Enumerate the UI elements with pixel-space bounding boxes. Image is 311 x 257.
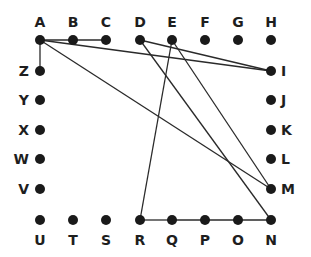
node-l-label: L [281,151,290,167]
node-d-dot [135,35,145,45]
node-z-dot [35,66,45,76]
node-v-label: V [18,181,29,197]
node-x-dot [35,125,45,135]
node-p-label: P [200,232,210,248]
node-s-dot [101,215,111,225]
node-o-dot [233,215,243,225]
node-g-label: G [232,14,244,30]
node-c-label: C [101,14,111,30]
node-b-dot [68,35,78,45]
node-c-dot [101,35,111,45]
node-w-dot [35,154,45,164]
node-j-label: J [280,92,286,108]
node-f-dot [200,35,210,45]
node-i-label: I [281,63,286,79]
node-r-dot [135,215,145,225]
node-f-label: F [200,14,210,30]
node-l-dot [266,154,276,164]
node-s-label: S [101,232,111,248]
node-v-dot [35,184,45,194]
node-k-label: K [281,122,293,138]
node-i-dot [266,66,276,76]
node-w-label: W [14,151,29,167]
node-y-label: Y [18,92,30,108]
edge-e-m [172,40,271,189]
edge-layer [40,40,271,220]
edge-e-r [140,40,172,220]
node-u-dot [35,215,45,225]
node-t-dot [68,215,78,225]
node-h-dot [266,35,276,45]
node-y-dot [35,95,45,105]
letter-dot-diagram: ABCDEFGHIJKLMNOPQRSTUVWXYZ [0,0,311,257]
node-x-label: X [18,122,29,138]
node-z-label: Z [19,63,29,79]
node-a-dot [35,35,45,45]
node-r-label: R [135,232,146,248]
node-m-dot [266,184,276,194]
node-b-label: B [68,14,79,30]
node-q-dot [167,215,177,225]
node-j-dot [266,95,276,105]
node-d-label: D [134,14,146,30]
node-g-dot [233,35,243,45]
node-e-label: E [167,14,177,30]
node-a-label: A [35,14,46,30]
node-h-label: H [265,14,277,30]
label-layer: ABCDEFGHIJKLMNOPQRSTUVWXYZ [14,14,295,248]
node-q-label: Q [166,232,178,248]
node-e-dot [167,35,177,45]
node-n-label: N [265,232,277,248]
node-u-label: U [34,232,45,248]
node-o-label: O [232,232,244,248]
node-k-dot [266,125,276,135]
node-n-dot [266,215,276,225]
node-m-label: M [281,181,295,197]
node-p-dot [200,215,210,225]
node-t-label: T [68,232,78,248]
